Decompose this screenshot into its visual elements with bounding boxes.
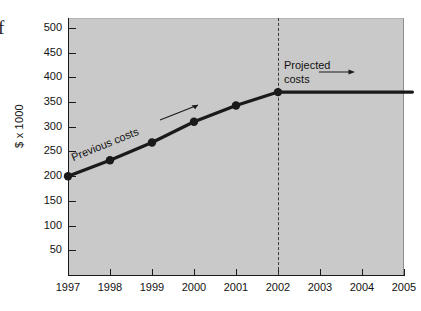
annotation-projected-costs: Projected costs	[284, 58, 330, 86]
data-point-marker	[190, 118, 198, 126]
data-point-marker	[106, 156, 114, 164]
annotation-projected-line2: costs	[284, 72, 330, 86]
previous-costs-line	[68, 92, 278, 176]
annotation-projected-line1: Projected	[284, 58, 330, 72]
data-point-marker	[274, 88, 282, 96]
data-point-marker	[148, 138, 156, 146]
data-point-marker	[64, 172, 72, 180]
previous-costs-arrow	[160, 105, 198, 120]
data-point-marker	[232, 101, 240, 109]
